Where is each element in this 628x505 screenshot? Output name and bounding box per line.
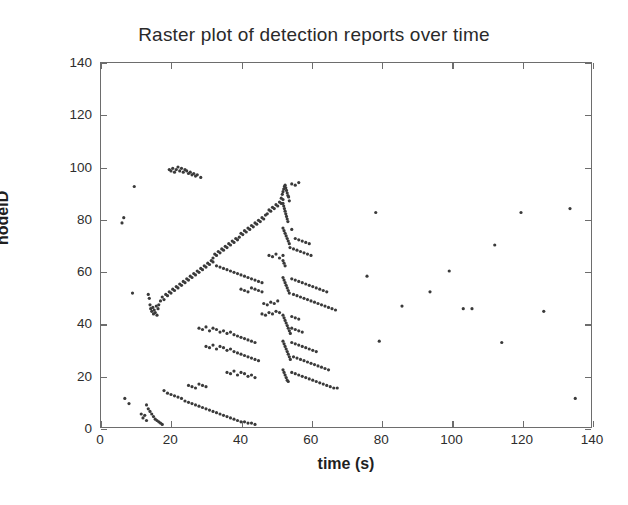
scatter-point	[302, 359, 305, 362]
scatter-point	[211, 410, 214, 413]
scatter-point	[568, 207, 571, 210]
scatter-point	[218, 331, 221, 334]
scatter-point	[182, 171, 185, 174]
scatter-point	[204, 266, 207, 269]
scatter-point	[301, 345, 304, 348]
scatter-point	[286, 220, 289, 223]
scatter-point	[201, 268, 204, 271]
scatter-point	[180, 397, 183, 400]
scatter-point	[229, 347, 232, 350]
scatter-point	[295, 294, 298, 297]
scatter-point	[197, 327, 200, 330]
scatter-point	[257, 359, 260, 362]
scatter-point	[253, 288, 256, 291]
scatter-point	[169, 393, 172, 396]
scatter-point	[157, 303, 160, 306]
scatter-point	[245, 230, 248, 233]
scatter-point	[150, 412, 153, 415]
y-axis-title: nodeID	[0, 191, 12, 245]
x-tick-label: 120	[510, 432, 533, 447]
scatter-point	[250, 357, 253, 360]
scatter-point	[189, 171, 192, 174]
scatter-point	[288, 242, 291, 245]
scatter-point	[194, 273, 197, 276]
x-tick-label: 0	[96, 432, 104, 447]
scatter-point	[131, 292, 134, 295]
scatter-point	[246, 355, 249, 358]
scatter-point	[147, 407, 150, 410]
scatter-point	[271, 312, 274, 315]
scatter-point	[208, 263, 211, 266]
scatter-point	[304, 346, 307, 349]
scatter-point	[336, 386, 339, 389]
scatter-point	[304, 241, 307, 244]
scatter-point	[290, 341, 293, 344]
scatter-point	[236, 272, 239, 275]
scatter-point	[315, 350, 318, 353]
scatter-point	[323, 305, 326, 308]
scatter-point	[236, 351, 239, 354]
scatter-point	[178, 169, 181, 172]
scatter-point	[332, 386, 335, 389]
scatter-point	[173, 171, 176, 174]
scatter-point	[222, 346, 225, 349]
x-tick-mark-top	[523, 63, 524, 69]
scatter-point	[215, 347, 218, 350]
scatter-point	[232, 333, 235, 336]
scatter-point	[288, 292, 291, 295]
y-tick-mark	[101, 377, 107, 378]
scatter-point	[166, 294, 169, 297]
scatter-point	[246, 375, 249, 378]
scatter-point	[325, 290, 328, 293]
scatter-point	[236, 419, 239, 422]
x-tick-mark	[523, 421, 524, 427]
x-tick-mark-top	[452, 63, 453, 69]
scatter-point	[120, 221, 123, 224]
scatter-point	[323, 367, 326, 370]
scatter-point	[309, 254, 312, 257]
x-tick-mark	[593, 421, 594, 427]
scatter-point	[299, 358, 302, 361]
scatter-point	[320, 366, 323, 369]
scatter-point	[299, 295, 302, 298]
scatter-point	[327, 368, 330, 371]
x-tick-mark-top	[242, 63, 243, 69]
scatter-point	[316, 302, 319, 305]
scatter-point	[297, 181, 300, 184]
x-tick-mark	[242, 421, 243, 427]
scatter-point	[154, 311, 157, 314]
scatter-point	[273, 302, 276, 305]
scatter-point	[238, 236, 241, 239]
scatter-point	[176, 286, 179, 289]
scatter-point	[259, 220, 262, 223]
scatter-point	[294, 328, 297, 331]
y-tick-mark-right	[585, 220, 591, 221]
scatter-point	[290, 228, 293, 231]
scatter-point	[243, 420, 246, 423]
scatter-point	[266, 212, 269, 215]
scatter-point	[308, 377, 311, 380]
scatter-point	[306, 360, 309, 363]
x-tick-mark	[171, 421, 172, 427]
scatter-point	[246, 422, 249, 425]
scatter-point	[266, 303, 269, 306]
scatter-point	[173, 394, 176, 397]
scatter-point	[147, 293, 150, 296]
scatter-point	[208, 409, 211, 412]
scatter-point	[250, 286, 253, 289]
x-tick-mark-top	[593, 63, 594, 69]
x-tick-mark	[452, 421, 453, 427]
scatter-point	[211, 260, 214, 263]
scatter-point	[269, 210, 272, 213]
scatter-point	[327, 306, 330, 309]
scatter-point	[290, 315, 293, 318]
x-tick-label: 40	[233, 432, 248, 447]
scatter-point	[176, 165, 179, 168]
scatter-point	[180, 284, 183, 287]
scatter-point	[574, 397, 577, 400]
y-tick-label: 20	[77, 368, 92, 383]
y-tick-label: 140	[69, 55, 92, 70]
scatter-point	[315, 286, 318, 289]
scatter-point	[288, 246, 291, 249]
scatter-point	[378, 340, 381, 343]
